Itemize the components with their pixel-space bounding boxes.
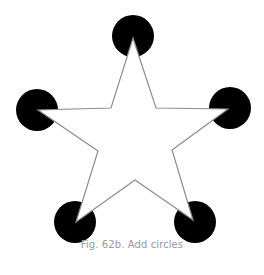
star-shape: [38, 38, 228, 222]
circle-right: [209, 87, 251, 129]
figure-caption: Fig. 62b. Add circles: [0, 239, 264, 250]
star-with-circles-figure: [0, 0, 264, 275]
